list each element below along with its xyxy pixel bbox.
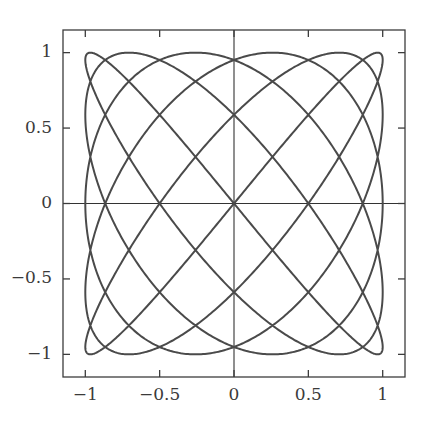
x-axis-tick-labels: −1−0.500.51	[73, 384, 388, 404]
x-tick-label-4: 1	[377, 384, 388, 404]
figure-container: −1−0.500.51 −1−0.500.51	[0, 0, 424, 427]
x-tick-label-3: 0.5	[295, 384, 322, 404]
y-tick-label-2: 0	[41, 192, 52, 212]
x-tick-label-2: 0	[229, 384, 240, 404]
x-tick-label-1: −0.5	[139, 384, 180, 404]
lissajous-plot: −1−0.500.51 −1−0.500.51	[0, 0, 424, 427]
y-tick-label-3: 0.5	[25, 117, 52, 137]
y-axis-tick-labels: −1−0.500.51	[11, 41, 52, 363]
x-tick-label-0: −1	[73, 384, 98, 404]
y-tick-label-4: 1	[41, 41, 52, 61]
y-tick-label-0: −1	[27, 343, 52, 363]
y-tick-label-1: −0.5	[11, 267, 52, 287]
